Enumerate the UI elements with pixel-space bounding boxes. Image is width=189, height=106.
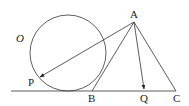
label-q: Q [140,92,148,104]
label-c: C [173,92,180,104]
segment-ac [134,22,176,91]
circle-o [30,15,106,91]
label-p: P [28,76,34,88]
label-o: O [16,32,24,44]
label-a: A [130,8,138,20]
label-b: B [88,92,95,104]
segment-ab [92,22,134,91]
vector-ap [40,22,134,77]
geometry-diagram: O A B Q C P [0,0,189,106]
vector-aq [134,22,144,89]
